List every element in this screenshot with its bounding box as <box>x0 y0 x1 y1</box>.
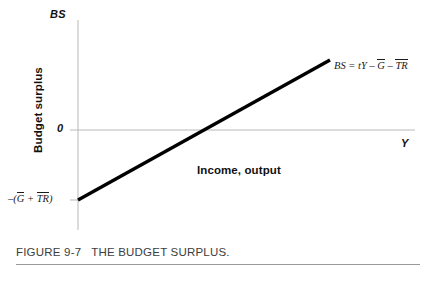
intercept-prefix: –( <box>8 193 17 204</box>
equation-term-ty: tY <box>358 60 367 71</box>
budget-surplus-equation-label: BS = tY – G – TR <box>334 59 408 71</box>
equation-term-tr-bar: TR <box>395 59 407 71</box>
figure-caption-text: FIGURE 9-7 THE BUDGET SURPLUS. <box>16 246 230 258</box>
intercept-suffix: ) <box>49 193 53 204</box>
equation-lhs: BS <box>334 60 346 71</box>
plot-area: BS Y 0 Budget surplus Income, output BS … <box>0 0 436 238</box>
equation-term-g-bar: G <box>377 59 385 71</box>
origin-label: 0 <box>57 122 63 134</box>
y-axis-description-label: Budget surplus <box>32 58 44 162</box>
figure-container: BS Y 0 Budget surplus Income, output BS … <box>0 0 436 281</box>
caption-divider-rule <box>16 264 420 265</box>
x-axis-symbol-label: Y <box>401 137 409 149</box>
equation-minus-2: – <box>385 60 396 71</box>
equation-equals: = <box>346 60 358 71</box>
intercept-plus: + <box>24 193 36 204</box>
intercept-term-tr-bar: TR <box>37 192 49 204</box>
plot-svg <box>0 0 436 238</box>
equation-minus-1: – <box>367 60 378 71</box>
x-axis-description-label: Income, output <box>197 164 281 176</box>
y-axis-symbol-label: BS <box>50 8 66 20</box>
y-intercept-label: –(G + TR) <box>8 192 52 204</box>
